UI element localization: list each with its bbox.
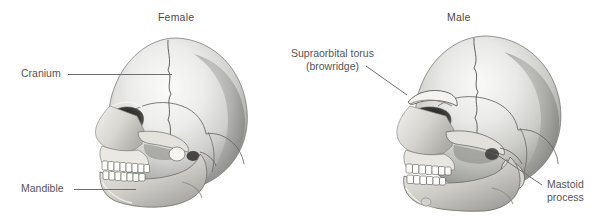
callout-label-supraorbital-line1: Supraorbital torus xyxy=(291,47,374,59)
callout-label-mandible: Mandible xyxy=(21,182,64,195)
callout-label-cranium: Cranium xyxy=(21,67,61,80)
callout-label-mastoid: Mastoid process xyxy=(547,178,584,203)
panel-title-female: Female xyxy=(158,11,194,23)
callout-label-supraorbital: Supraorbital torus (browridge) xyxy=(291,47,374,72)
skull-comparison-figure: Female Male xyxy=(0,0,597,220)
callout-label-mastoid-line2: process xyxy=(547,191,584,204)
female-skull-illustration xyxy=(82,32,260,210)
panel-title-male: Male xyxy=(447,11,471,23)
callout-label-supraorbital-line2: (browridge) xyxy=(291,60,374,73)
callout-label-mastoid-line1: Mastoid xyxy=(547,178,584,190)
